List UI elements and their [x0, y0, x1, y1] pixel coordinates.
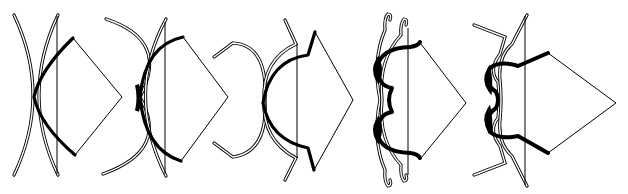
drawn-string: [548, 53, 616, 153]
drawn-string: [181, 37, 228, 161]
drawn-bow-limb: [263, 32, 315, 170]
figure-4-double-curved-bow: [375, 14, 466, 186]
drawn-string: [314, 32, 353, 170]
figure-1-simple-bow: [14, 15, 122, 175]
drawn-string: [73, 38, 122, 155]
figure-3-recurve-bow: [214, 20, 353, 180]
figure-5-angular-double-curved-bow: [474, 15, 616, 186]
limb-belly-thickening: [486, 70, 490, 130]
grip: [137, 85, 140, 111]
unstrung-limb-outline: [377, 14, 407, 186]
unstrung-limb-outline: [474, 15, 527, 186]
unstrung-limb-outline: [103, 19, 166, 176]
drawn-string: [421, 44, 466, 158]
